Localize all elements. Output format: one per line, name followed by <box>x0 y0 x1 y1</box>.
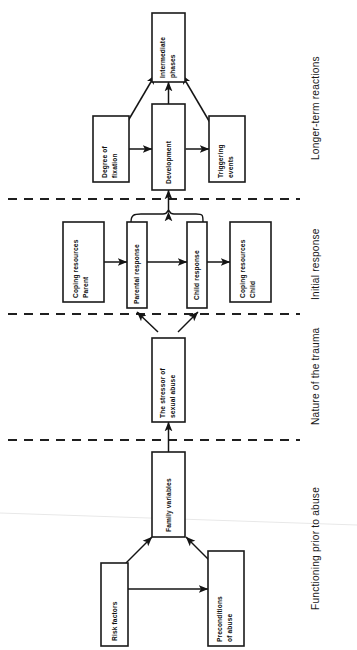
box-label-line1: Family variables <box>165 478 173 532</box>
box-family-variables[interactable]: Family variables <box>152 452 185 537</box>
box-label-line2: of abuse <box>226 614 233 642</box>
box-degree-of-fixation[interactable]: Degree of fixation <box>93 116 129 182</box>
figure-canvas: Intermediate phases Degree of fixation D… <box>0 0 357 650</box>
box-label-line2: phases <box>169 54 177 78</box>
box-parental-response[interactable]: Parental response <box>127 222 147 308</box>
box-label-line1: Child response <box>193 250 201 300</box>
box-risk-factors[interactable]: Risk factors <box>101 563 128 646</box>
box-development[interactable]: Development <box>152 104 185 190</box>
box-label-line1: The stressor of <box>159 367 166 418</box>
box-triggering-events[interactable]: Triggering events <box>209 116 245 182</box>
box-the-stressor-of-sexual-abuse[interactable]: The stressor of sexual abuse <box>152 338 185 422</box>
box-label-line1: Degree of <box>101 146 109 178</box>
box-label-line1: Parental response <box>133 244 141 304</box>
box-label-line1: Coping resources <box>239 239 247 298</box>
box-label-line1: Intermediate <box>159 37 166 78</box>
box-label-line2: Parent <box>82 276 89 298</box>
section-label-nature-of-trauma: Nature of the trauma <box>310 327 321 425</box>
box-label-line2: Child <box>249 281 256 298</box>
box-intermediate-phases[interactable]: Intermediate phases <box>152 13 185 82</box>
box-label-line1: Development <box>165 140 173 184</box>
box-coping-resources-parent[interactable]: Coping resources Parent <box>63 222 104 302</box>
box-label-line1: Preconditions <box>216 596 223 642</box>
box-preconditions-of-abuse[interactable]: Preconditions of abuse <box>208 551 244 646</box>
section-label-initial-response: Initial response <box>310 228 321 300</box>
box-label-line1: Triggering <box>217 144 225 178</box>
box-label-line2: fixation <box>111 153 118 178</box>
section-label-longer-term: Longer-term reactions <box>310 56 321 160</box>
box-label-line2: events <box>227 156 234 178</box>
flow-diagram: Intermediate phases Degree of fixation D… <box>0 0 357 650</box>
section-labels: Longer-term reactions Initial response N… <box>310 56 321 610</box>
box-child-response[interactable]: Child response <box>187 222 207 308</box>
box-label-line1: Risk factors <box>111 601 118 641</box>
box-label-line2: sexual abuse <box>169 375 176 418</box>
box-label-line1: Coping resources <box>72 239 80 298</box>
section-label-functioning-prior: Functioning prior to abuse <box>310 487 321 610</box>
page-background <box>0 0 357 650</box>
box-coping-resources-child[interactable]: Coping resources Child <box>230 222 271 302</box>
